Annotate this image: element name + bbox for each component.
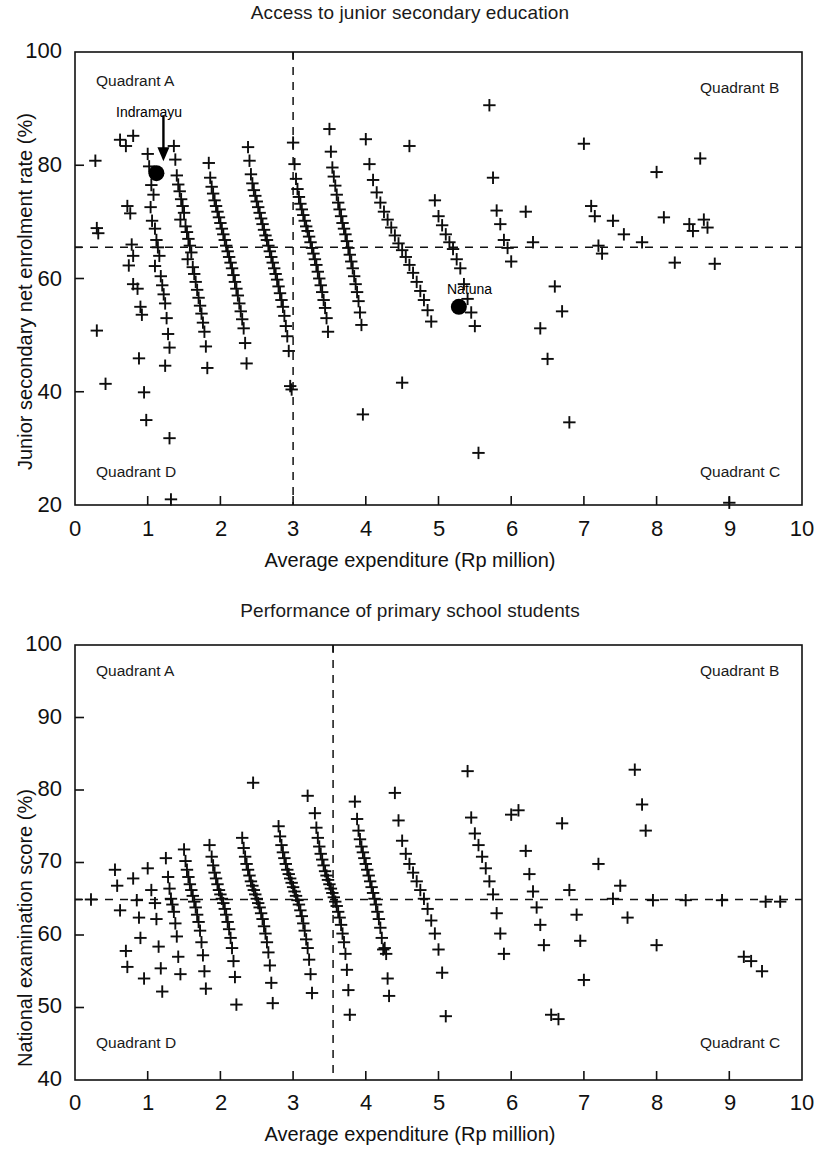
chart-access-junior-secondary: Access to junior secondary education Jun… <box>0 0 820 582</box>
scatter-points <box>85 764 787 1026</box>
plot-area-access <box>0 0 820 582</box>
highlight-point-natuna <box>451 299 467 315</box>
highlight-point-indramayu <box>148 165 164 181</box>
scatter-points <box>89 99 735 509</box>
chart-performance-primary-school: Performance of primary school students N… <box>0 582 820 1164</box>
plot-area-performance <box>0 582 820 1164</box>
